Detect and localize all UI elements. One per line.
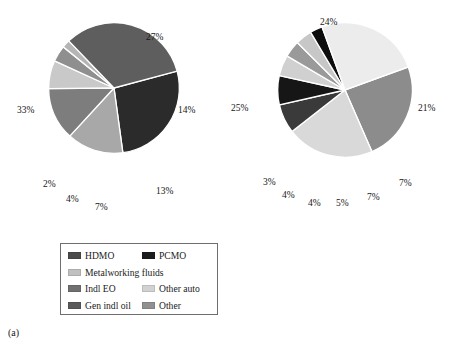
legend-a-item-other-auto[interactable]: Other auto (142, 282, 200, 296)
panel-b: 24% 21% 7% 7% 5% 4% 4% 3% 25% Dispersant… (228, 0, 457, 358)
pie-a-label-other: 33% (17, 105, 34, 115)
pie-b-label-antiwear: 4% (282, 190, 295, 200)
legend-a-item-hdmo[interactable]: HDMO (68, 249, 142, 263)
legend-a-swatch-other-auto (142, 285, 155, 292)
legend-a-swatch-indl-eo (68, 285, 81, 292)
legend-a-swatch-gen-indl-oil (68, 302, 81, 309)
pie-chart-b (277, 22, 413, 158)
legend-a-item-pcmo[interactable]: PCMO (142, 249, 186, 263)
pie-a-label-hdmo: 27% (146, 32, 163, 42)
legend-a-label-indl-eo: Indl EO (85, 283, 116, 294)
legend-a-swatch-pcmo (142, 252, 155, 259)
pie-b-label-dispersants: 24% (320, 17, 337, 27)
legend-a-swatch-hdmo (68, 252, 81, 259)
legend-a-item-metalworking-fluids[interactable]: Metalworking fluids (68, 266, 210, 280)
pie-b-label-detergents: 5% (336, 198, 349, 208)
pie-b-label-other: 25% (231, 103, 248, 113)
pie-b-slices (277, 22, 413, 158)
legend-a: HDMO PCMO Metalworking fluids Indl EO Ot… (60, 243, 218, 315)
panel-a-caption: (a) (8, 327, 19, 338)
legend-a-label-hdmo: HDMO (85, 250, 114, 261)
pie-a-label-gen-indl-oil: 2% (43, 179, 56, 189)
pie-b-label-friction-modifiers: 4% (308, 198, 321, 208)
legend-a-swatch-other (142, 302, 155, 309)
figure-two-pie-charts: 27% 14% 13% 7% 4% 2% 33% HDMO PCMO Metal… (0, 0, 457, 358)
legend-a-label-metalworking-fluids: Metalworking fluids (85, 267, 164, 278)
pie-a-label-indl-eo: 7% (95, 202, 108, 212)
panel-a: 27% 14% 13% 7% 4% 2% 33% HDMO PCMO Metal… (0, 0, 228, 358)
legend-a-label-other-auto: Other auto (159, 283, 200, 294)
legend-a-label-gen-indl-oil: Gen indl oil (85, 300, 131, 311)
pie-b-label-vii: 7% (399, 178, 412, 188)
pie-b-label-emulsifiers: 3% (263, 177, 276, 187)
pie-b-label-antioxidants: 21% (418, 103, 435, 113)
legend-a-item-indl-eo[interactable]: Indl EO (68, 282, 142, 296)
legend-a-label-pcmo: PCMO (159, 250, 186, 261)
pie-b-label-corrosion-inhibitors: 7% (367, 192, 380, 202)
legend-a-item-gen-indl-oil[interactable]: Gen indl oil (68, 299, 142, 313)
pie-a-label-other-auto: 4% (66, 194, 79, 204)
legend-a-swatch-metalworking-fluids (68, 269, 81, 276)
legend-a-label-other: Other (159, 300, 181, 311)
pie-a-label-pcmo: 14% (178, 105, 195, 115)
pie-a-label-metalworking-fluids: 13% (156, 186, 173, 196)
legend-a-item-other[interactable]: Other (142, 299, 181, 313)
